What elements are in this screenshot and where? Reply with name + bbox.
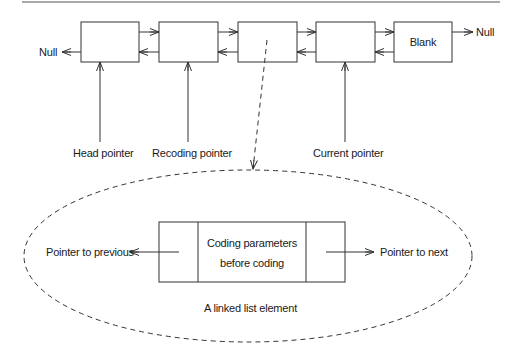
element-caption: A linked list element bbox=[204, 302, 297, 315]
null-left-label: Null bbox=[39, 46, 57, 59]
node-box-4 bbox=[316, 22, 375, 62]
current-pointer-label: Current pointer bbox=[313, 147, 383, 160]
recoding-pointer-label: Recoding pointer bbox=[152, 147, 232, 160]
linked-list-diagram: Null Null Blank Head pointer Recoding po… bbox=[0, 0, 511, 357]
node-5-label: Blank bbox=[394, 36, 452, 49]
pointer-to-previous-label: Pointer to previous bbox=[46, 246, 134, 259]
null-right-label: Null bbox=[476, 26, 494, 39]
element-content-line1: Coding parameters bbox=[198, 237, 306, 250]
head-pointer-label: Head pointer bbox=[73, 147, 134, 160]
element-content-line2: before coding bbox=[198, 257, 306, 270]
pointer-to-next-label: Pointer to next bbox=[380, 246, 448, 259]
node-box-1 bbox=[81, 22, 139, 62]
node-box-2 bbox=[159, 22, 218, 62]
element-box bbox=[159, 222, 345, 282]
node-box-3 bbox=[238, 22, 297, 62]
